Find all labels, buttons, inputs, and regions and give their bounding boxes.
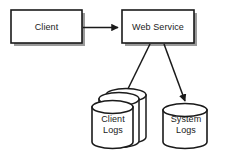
diagram-canvas (0, 0, 230, 157)
web-service-box[interactable] (122, 10, 194, 43)
client-box[interactable] (11, 10, 82, 43)
system-logs-cylinder[interactable] (163, 104, 207, 149)
edge-web-service-to-system-logs (164, 44, 185, 101)
architecture-diagram: Client Web Service Client Logs System Lo… (0, 0, 230, 157)
client-logs-cylinder-front[interactable] (92, 101, 133, 149)
